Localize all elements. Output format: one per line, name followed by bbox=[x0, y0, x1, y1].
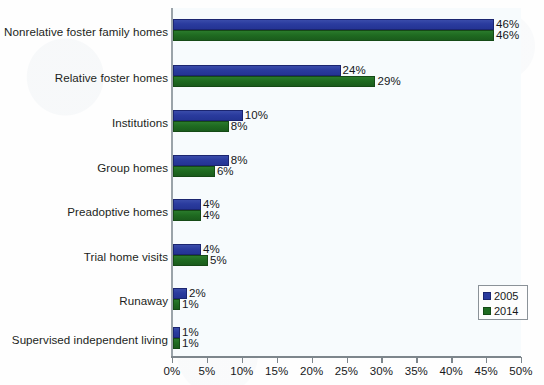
bar-value-2014-4: 4% bbox=[203, 209, 220, 221]
bar-2014-5[interactable] bbox=[173, 255, 208, 266]
legend-label-2014: 2014 bbox=[494, 305, 518, 317]
x-tick-label-20%: 20% bbox=[300, 365, 323, 377]
legend-item-2014[interactable]: 2014 bbox=[483, 305, 518, 317]
x-tick-10% bbox=[242, 357, 243, 363]
x-tick-label-15%: 15% bbox=[265, 365, 288, 377]
bar-2005-0[interactable] bbox=[173, 19, 494, 30]
x-tick-15% bbox=[277, 357, 278, 363]
x-tick-label-25%: 25% bbox=[335, 365, 358, 377]
legend-label-2005: 2005 bbox=[494, 290, 518, 302]
bar-2005-1[interactable] bbox=[173, 65, 341, 76]
bar-2014-6[interactable] bbox=[173, 299, 180, 310]
category-label-2: Institutions bbox=[112, 116, 168, 129]
category-label-7: Supervised independent living bbox=[12, 333, 168, 346]
x-tick-label-35%: 35% bbox=[405, 365, 428, 377]
chart-page: 0%5%10%15%20%25%30%35%40%45%50% Nonrelat… bbox=[0, 0, 544, 385]
x-tick-30% bbox=[381, 357, 382, 363]
x-tick-0% bbox=[172, 357, 173, 363]
bar-value-2014-0: 46% bbox=[496, 29, 519, 41]
plot-area bbox=[172, 8, 521, 357]
chart-legend[interactable]: 2005 2014 bbox=[478, 285, 528, 320]
bar-value-2014-5: 5% bbox=[210, 254, 227, 266]
x-tick-label-0%: 0% bbox=[164, 365, 181, 377]
bar-2005-7[interactable] bbox=[173, 327, 180, 338]
x-tick-20% bbox=[312, 357, 313, 363]
x-tick-25% bbox=[347, 357, 348, 363]
x-tick-label-30%: 30% bbox=[370, 365, 393, 377]
bar-value-2014-2: 8% bbox=[231, 120, 248, 132]
category-label-5: Trial home visits bbox=[84, 250, 168, 263]
legend-swatch-2005-icon bbox=[483, 292, 491, 300]
x-tick-35% bbox=[416, 357, 417, 363]
bar-value-2014-3: 6% bbox=[217, 165, 234, 177]
x-tick-45% bbox=[486, 357, 487, 363]
x-tick-50% bbox=[521, 357, 522, 363]
bar-value-2014-6: 1% bbox=[182, 298, 199, 310]
bar-value-2005-2: 10% bbox=[245, 109, 268, 121]
category-label-6: Runaway bbox=[119, 294, 168, 307]
bar-2014-2[interactable] bbox=[173, 121, 229, 132]
x-tick-label-10%: 10% bbox=[230, 365, 253, 377]
x-tick-5% bbox=[207, 357, 208, 363]
legend-swatch-2014-icon bbox=[483, 307, 491, 315]
bar-2014-1[interactable] bbox=[173, 76, 375, 87]
x-tick-label-45%: 45% bbox=[474, 365, 497, 377]
category-label-3: Group homes bbox=[97, 161, 168, 174]
bar-2014-0[interactable] bbox=[173, 30, 494, 41]
x-tick-label-5%: 5% bbox=[198, 365, 215, 377]
x-tick-label-50%: 50% bbox=[509, 365, 532, 377]
bar-value-2005-1: 24% bbox=[343, 64, 366, 76]
bar-2005-5[interactable] bbox=[173, 244, 201, 255]
bar-value-2014-7: 1% bbox=[182, 337, 199, 349]
x-tick-label-40%: 40% bbox=[440, 365, 463, 377]
bar-2014-7[interactable] bbox=[173, 338, 180, 349]
category-label-0: Nonrelative foster family homes bbox=[4, 25, 168, 38]
category-label-1: Relative foster homes bbox=[55, 71, 168, 84]
legend-item-2005[interactable]: 2005 bbox=[483, 290, 518, 302]
x-tick-40% bbox=[451, 357, 452, 363]
bar-2014-3[interactable] bbox=[173, 166, 215, 177]
bar-value-2014-1: 29% bbox=[377, 75, 400, 87]
bar-2005-4[interactable] bbox=[173, 199, 201, 210]
category-label-4: Preadoptive homes bbox=[67, 205, 168, 218]
bar-2014-4[interactable] bbox=[173, 210, 201, 221]
